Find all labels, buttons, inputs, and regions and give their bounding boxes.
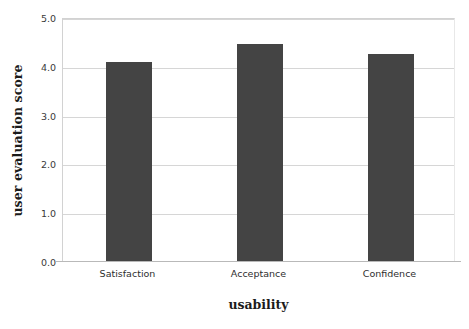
plot-area <box>62 18 455 262</box>
y-axis-tick-label: 0.0 <box>6 257 62 268</box>
y-axis-tick-label: 2.0 <box>6 159 62 170</box>
bar <box>106 62 152 262</box>
bar <box>368 54 414 262</box>
y-axis-tick-label: 3.0 <box>6 110 62 121</box>
bar-chart-figure: user evaluation score 0.01.02.03.04.05.0… <box>0 0 469 329</box>
x-axis-tick-label: Satisfaction <box>68 268 188 279</box>
x-axis-title: usability <box>62 297 455 312</box>
y-axis-tick-labels: 0.01.02.03.04.05.0 <box>0 0 62 329</box>
y-axis-tick-label: 1.0 <box>6 208 62 219</box>
gridline <box>63 19 454 20</box>
x-axis-line <box>56 261 461 262</box>
x-axis-tick-label: Confidence <box>330 268 450 279</box>
bar <box>237 44 283 262</box>
x-axis-tick-label: Acceptance <box>199 268 319 279</box>
y-axis-tick-label: 4.0 <box>6 61 62 72</box>
y-axis-tick-label: 5.0 <box>6 13 62 24</box>
